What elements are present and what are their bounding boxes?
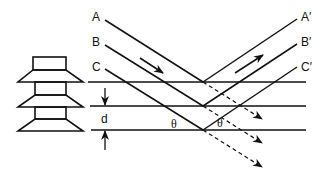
incident-direction-arrow-icon <box>140 58 163 73</box>
incident-ray-c <box>105 69 203 130</box>
angle-label-incident: θ <box>171 117 177 131</box>
lattice-planes <box>88 82 306 130</box>
incident-ray-b <box>105 45 203 106</box>
label-a-prime: A′ <box>301 10 312 24</box>
bragg-diffraction-diagram: d A B C A′ B′ C′ θ θ <box>0 0 328 175</box>
label-b-prime: B′ <box>301 35 312 49</box>
angle-label-reflected: θ <box>217 116 223 130</box>
incident-ray-a <box>105 20 203 82</box>
label-a: A <box>92 10 100 24</box>
label-c-prime: C′ <box>301 60 313 74</box>
reflected-ray-a <box>203 19 297 82</box>
transmitted-ray-c <box>203 130 262 167</box>
label-c: C <box>92 60 101 74</box>
spacing-label: d <box>101 112 108 126</box>
incident-rays <box>105 20 203 130</box>
label-b: B <box>92 35 100 49</box>
pagoda-crystal-icon <box>18 57 83 131</box>
reflected-ray-b <box>203 44 297 106</box>
reflected-rays <box>203 19 297 130</box>
